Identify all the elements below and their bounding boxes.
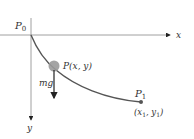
p1-coords-label: (x1, y1)	[134, 107, 163, 118]
diagram-canvas: x y P0 P(x, y) mg P1 (x1, y1)	[0, 0, 194, 139]
particle-ball	[49, 61, 60, 72]
y-axis-label: y	[26, 123, 33, 133]
x-axis-label: x	[176, 30, 181, 40]
particle-label: P(x, y)	[62, 61, 92, 71]
p0-label: P0	[14, 20, 26, 33]
p1-label: P1	[134, 88, 146, 101]
gravity-label: mg	[39, 78, 54, 88]
